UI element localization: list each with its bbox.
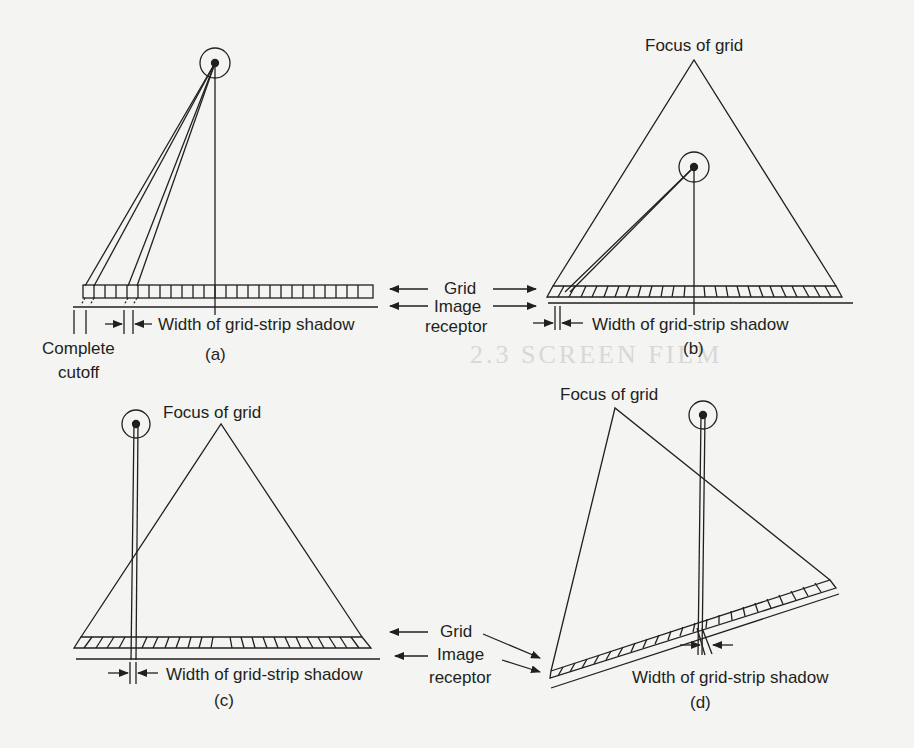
grid-septa-c bbox=[84, 637, 359, 648]
focus-label-c: Focus of grid bbox=[163, 403, 261, 422]
focus-label-b: Focus of grid bbox=[645, 36, 743, 55]
shadow-label-d: Width of grid-strip shadow bbox=[632, 668, 829, 687]
grid-strip-c bbox=[74, 637, 371, 648]
grid-septa-a bbox=[94, 285, 358, 298]
focus-triangle-d bbox=[551, 408, 830, 671]
caption-a: (a) bbox=[205, 345, 226, 364]
panel-d bbox=[550, 401, 839, 688]
grid-label-bottom: Grid bbox=[440, 622, 472, 641]
shadow-label-b: Width of grid-strip shadow bbox=[592, 315, 789, 334]
grid-cutoff-diagram: Width of grid-strip shadow Complete cuto… bbox=[0, 0, 914, 748]
caption-b: (b) bbox=[683, 339, 704, 358]
caption-d: (d) bbox=[690, 693, 711, 712]
focus-label-d: Focus of grid bbox=[560, 385, 658, 404]
grid-septa-d bbox=[558, 583, 821, 676]
image-label-top: Image bbox=[434, 297, 481, 316]
receptor-label-top: receptor bbox=[425, 317, 488, 336]
grid-label-top: Grid bbox=[444, 279, 476, 298]
image-label-bottom: Image bbox=[437, 645, 484, 664]
shadow-label-c: Width of grid-strip shadow bbox=[166, 665, 363, 684]
panel-c bbox=[74, 410, 540, 684]
complete-label: Complete bbox=[42, 339, 115, 358]
caption-c: (c) bbox=[214, 691, 234, 710]
focus-triangle-c bbox=[81, 424, 362, 637]
shadow-label-a: Width of grid-strip shadow bbox=[158, 315, 355, 334]
receptor-label-bottom: receptor bbox=[429, 668, 492, 687]
panel-b bbox=[533, 60, 853, 330]
cutoff-label: cutoff bbox=[58, 363, 100, 382]
